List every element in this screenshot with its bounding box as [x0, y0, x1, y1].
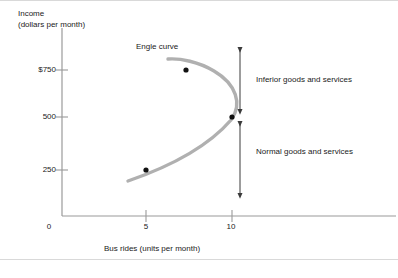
- chart-figure: Income (dollars per month) Bus rides (un…: [0, 0, 398, 278]
- inferior-goods-label: Inferior goods and services: [256, 74, 352, 85]
- y-axis-label-line2: (dollars per month): [18, 19, 85, 30]
- x-axis-label: Bus rides (units per month): [104, 243, 200, 254]
- engle-curve-path: [128, 59, 237, 181]
- y-tick-label-750: $750: [24, 65, 56, 74]
- engel-curve-plot: [0, 0, 398, 278]
- y-tick-label-250: 250: [24, 165, 56, 174]
- x-tick-label-10: 10: [222, 222, 240, 231]
- data-point-1: [143, 167, 148, 172]
- x-tick-label-5: 5: [139, 222, 153, 231]
- data-point-2: [229, 114, 234, 119]
- y-axis-label: Income (dollars per month): [18, 8, 85, 30]
- normal-goods-label: Normal goods and services: [256, 146, 353, 157]
- y-axis-label-line1: Income: [18, 8, 85, 19]
- data-point-3: [183, 67, 188, 72]
- y-tick-label-500: 500: [24, 112, 56, 121]
- x-tick-label-0: 0: [42, 222, 56, 231]
- engle-curve-label: Engle curve: [136, 41, 178, 52]
